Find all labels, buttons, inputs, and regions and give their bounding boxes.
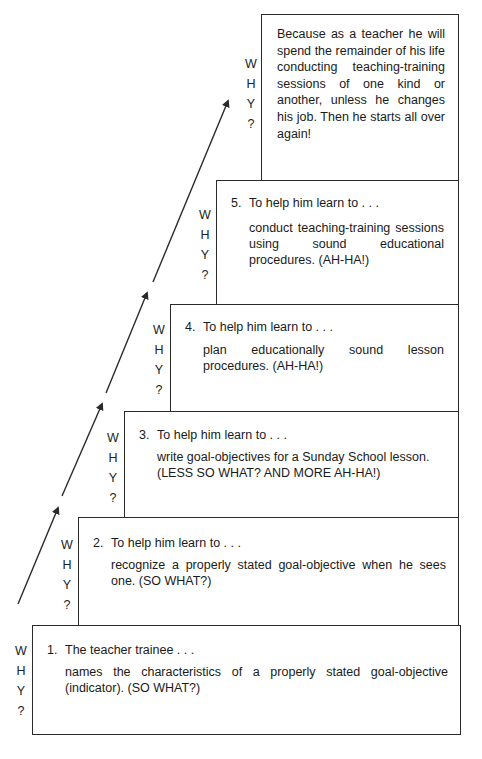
arrow-segment-2 (62, 404, 102, 496)
step-5-number: 5. (231, 195, 249, 211)
why-label-3: W H Y ? (106, 428, 120, 508)
step-2-heading: 2.To help him learn to . . . (93, 535, 241, 551)
step-3-heading: 3.To help him learn to . . . (139, 427, 287, 443)
why-staircase-diagram: W H Y ? Because as a teacher he will spe… (0, 0, 482, 759)
why-label-1: W H Y ? (14, 641, 28, 721)
arrow-segment-3 (106, 293, 147, 393)
step-1-number: 1. (47, 642, 65, 658)
step-3-number: 3. (139, 427, 157, 443)
top-box-text: Because as a teacher he will spend the r… (277, 26, 445, 142)
step-2-body: recognize a properly stated goal-objecti… (111, 557, 446, 589)
step-1-body: names the characteristics of a properly … (65, 664, 448, 696)
step-5-body: conduct teaching-training sessions using… (249, 220, 444, 268)
step-4-heading: 4.To help him learn to . . . (185, 319, 333, 335)
step-4-number: 4. (185, 319, 203, 335)
step-1-heading: 1.The teacher trainee . . . (47, 642, 194, 658)
step-5-heading: 5.To help him learn to . . . (231, 195, 379, 211)
why-label-top: W H Y ? (244, 54, 258, 134)
step-2-number: 2. (93, 535, 111, 551)
why-label-4: W H Y ? (152, 320, 166, 400)
step-4-body: plan educationally sound lesson procedur… (203, 342, 444, 374)
step-3-body: write goal-objectives for a Sunday Schoo… (157, 449, 447, 481)
arrow-segment-1 (18, 508, 58, 604)
why-label-5: W H Y ? (198, 205, 212, 285)
why-label-2: W H Y ? (60, 535, 74, 615)
